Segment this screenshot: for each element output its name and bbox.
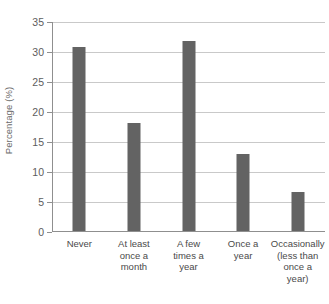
bar [73, 47, 86, 231]
bar [237, 154, 250, 231]
x-axis-labels: NeverAt least once a monthA few times a … [52, 238, 325, 304]
bar-chart: Percentage (%) 05101520253035 NeverAt le… [0, 0, 329, 304]
y-axis-title: Percentage (%) [0, 0, 18, 240]
x-axis-line [52, 231, 325, 232]
y-axis-tick-label: 30 [32, 46, 44, 58]
y-axis-tick-label: 25 [32, 76, 44, 88]
bar [291, 192, 304, 231]
y-axis-tick-label: 15 [32, 136, 44, 148]
y-axis-tick-label: 20 [32, 106, 44, 118]
x-axis-tick-label: Occasionally (less than once a year) [264, 238, 329, 284]
y-axis-tick-label: 10 [32, 166, 44, 178]
y-axis-tick-label: 0 [38, 226, 44, 238]
plot-area: 05101520253035 [52, 22, 325, 232]
y-axis-line [52, 22, 53, 232]
bar [127, 123, 140, 231]
gridline [52, 22, 325, 23]
y-axis-title-label: Percentage (%) [4, 86, 15, 153]
bar [182, 41, 195, 231]
y-axis-tick-label: 35 [32, 16, 44, 28]
y-axis-tick-label: 5 [38, 196, 44, 208]
